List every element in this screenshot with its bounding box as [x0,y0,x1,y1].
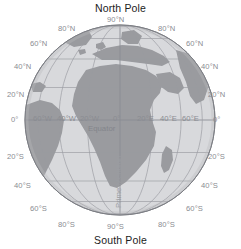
globe-diagram: North Pole South Pole 90°N 90°S 80°N 60°… [0,0,241,249]
latitude-label-left-20s: 20°S [7,152,24,161]
north-pole-title: North Pole [0,2,241,14]
latitude-label-right-0: 0° [213,115,220,124]
longitude-label-40w: 40°W [57,114,76,123]
equator-label: Equator [88,124,115,133]
prime-meridian-label: Prime Meridian [114,156,123,208]
longitude-label-60w: 60°W [33,114,52,123]
latitude-label-left-40n: 40°N [14,62,31,71]
latitude-label-right-40s: 40°S [201,181,218,190]
latitude-label-left-60n: 60°N [30,39,47,48]
latitude-label-left-60s: 60°S [30,204,47,213]
longitude-label-0: 0° [113,114,120,123]
latitude-label-left-0: 0° [11,115,18,124]
latitude-label-left-20n: 20°N [7,90,24,99]
latitude-label-right-80s: 80°S [158,220,175,229]
pole-tick-label-90n: 90°N [107,15,124,24]
latitude-label-left-40s: 40°S [14,181,31,190]
latitude-label-left-80s: 80°S [58,220,75,229]
longitude-label-40e: 40°E [160,114,177,123]
longitude-label-20w: 20°W [80,114,99,123]
longitude-label-20e: 20°E [137,114,154,123]
south-pole-title: South Pole [0,234,241,246]
latitude-label-right-40n: 40°N [201,62,218,71]
latitude-label-left-80n: 80°N [58,24,75,33]
latitude-label-right-80n: 80°N [158,24,175,33]
latitude-label-right-60n: 60°N [186,39,203,48]
latitude-label-right-20s: 20°S [208,152,225,161]
latitude-label-right-20n: 20°N [208,90,225,99]
longitude-label-60e: 60°E [182,114,199,123]
pole-tick-label-90s: 90°S [107,222,124,231]
latitude-label-right-60s: 60°S [186,204,203,213]
